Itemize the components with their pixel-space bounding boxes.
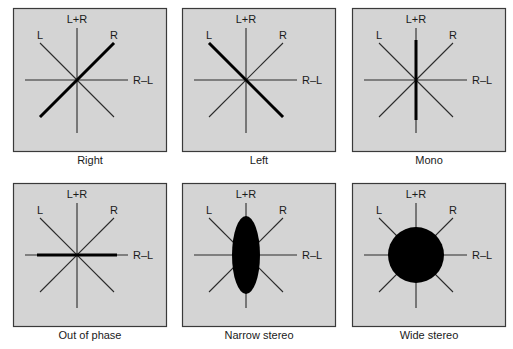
panel-left: L+R L R R–L: [182, 8, 336, 152]
caption-left: Left: [174, 154, 344, 166]
panel-right: L+R L R R–L: [13, 8, 167, 152]
label-r: R: [110, 204, 118, 216]
label-r: R: [449, 204, 457, 216]
label-r-minus-l: R–L: [302, 249, 322, 261]
label-r-minus-l: R–L: [133, 74, 153, 86]
label-l-plus-r: L+R: [406, 188, 427, 200]
goniometer-mono: L+R L R R–L: [352, 8, 506, 152]
label-r: R: [279, 29, 287, 41]
label-l-plus-r: L+R: [236, 188, 257, 200]
caption-wide-stereo: Wide stereo: [344, 329, 513, 341]
panel-out-of-phase: L+R L R R–L: [13, 183, 167, 327]
goniometer-right: L+R L R R–L: [13, 8, 167, 152]
label-r: R: [110, 29, 118, 41]
goniometer-wide-stereo: L+R L R R–L: [352, 183, 506, 327]
label-l-plus-r: L+R: [67, 13, 88, 25]
goniometer-left: L+R L R R–L: [182, 8, 336, 152]
signal-circle: [388, 227, 444, 283]
caption-right: Right: [5, 154, 175, 166]
goniometer-narrow-stereo: L+R L R R–L: [182, 183, 336, 327]
label-r: R: [279, 204, 287, 216]
panel-wide-stereo: L+R L R R–L: [352, 183, 506, 327]
label-l: L: [376, 204, 382, 216]
label-l-plus-r: L+R: [67, 188, 88, 200]
caption-out-of-phase: Out of phase: [5, 329, 175, 341]
label-r-minus-l: R–L: [472, 74, 492, 86]
label-r-minus-l: R–L: [472, 249, 492, 261]
label-r-minus-l: R–L: [133, 249, 153, 261]
label-l: L: [376, 29, 382, 41]
label-l: L: [206, 29, 212, 41]
goniometer-out-of-phase: L+R L R R–L: [13, 183, 167, 327]
label-l: L: [37, 204, 43, 216]
label-l: L: [206, 204, 212, 216]
label-l-plus-r: L+R: [236, 13, 257, 25]
caption-mono: Mono: [344, 154, 513, 166]
panel-narrow-stereo: L+R L R R–L: [182, 183, 336, 327]
signal-ellipse: [232, 216, 260, 294]
label-r: R: [449, 29, 457, 41]
panel-mono: L+R L R R–L: [352, 8, 506, 152]
caption-narrow-stereo: Narrow stereo: [174, 329, 344, 341]
label-l-plus-r: L+R: [406, 13, 427, 25]
label-l: L: [37, 29, 43, 41]
label-r-minus-l: R–L: [302, 74, 322, 86]
